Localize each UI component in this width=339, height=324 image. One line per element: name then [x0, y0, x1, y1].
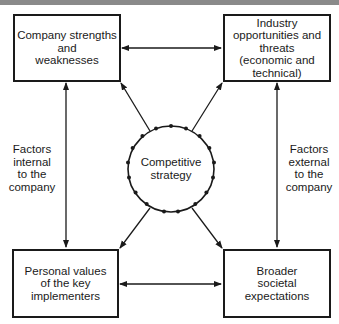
arrow-to-top-right [192, 83, 222, 131]
arrow-to-top-left [121, 83, 150, 131]
box-societal-expectations: Broader societal expectations [223, 249, 331, 318]
box-personal-values: Personal values of the key implementers [12, 249, 119, 318]
box-industry-opportunities: Industry opportunities and threats (econ… [223, 14, 331, 82]
label-internal-factors: Factors internal to the company [4, 143, 60, 193]
box-label: Personal values of the key implementers [25, 265, 107, 303]
box-label: Company strengths and weaknesses [17, 29, 117, 67]
box-label: Industry opportunities and threats (econ… [233, 17, 321, 80]
label-competitive-strategy: Competitive strategy [131, 156, 211, 182]
box-company-strengths: Company strengths and weaknesses [13, 14, 121, 82]
box-label: Broader societal expectations [245, 265, 310, 303]
arrow-to-bottom-left [120, 208, 150, 248]
arrow-to-bottom-right [192, 208, 222, 248]
label-external-factors: Factors external to the company [281, 143, 337, 193]
